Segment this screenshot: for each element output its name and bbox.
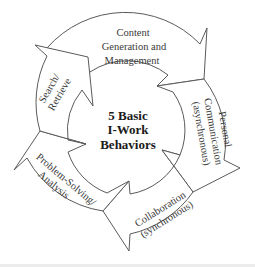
svg-text:Management: Management — [105, 55, 160, 66]
svg-text:Generation and: Generation and — [102, 41, 167, 52]
svg-text:I-Work: I-Work — [107, 122, 149, 137]
i-work-cycle-diagram: Content Generation and Management Person… — [0, 0, 255, 267]
svg-text:Behaviors: Behaviors — [100, 137, 156, 152]
svg-text:Content: Content — [116, 27, 149, 38]
center-title: 5 Basic I-Work Behaviors — [100, 108, 156, 152]
svg-text:5 Basic: 5 Basic — [108, 108, 148, 123]
